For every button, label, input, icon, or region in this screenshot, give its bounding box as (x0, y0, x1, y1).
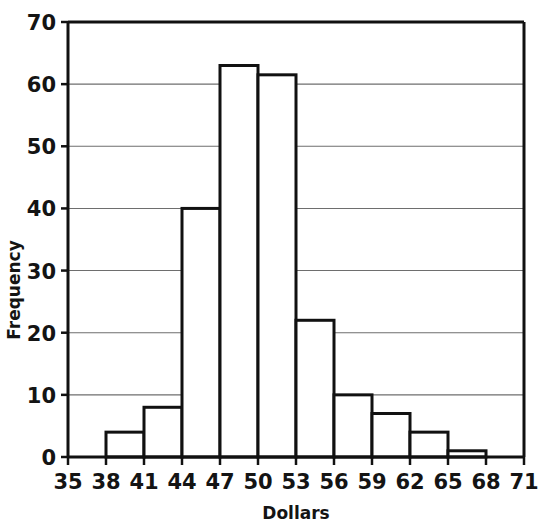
x-tick-label-35: 35 (53, 470, 82, 494)
y-tick-label-60: 60 (27, 73, 56, 97)
histogram-bar (258, 75, 296, 457)
y-tick-label-0: 0 (41, 446, 56, 470)
histogram-bar (182, 208, 220, 457)
x-tick-label-38: 38 (91, 470, 120, 494)
histogram-bar (334, 395, 372, 457)
y-tick-label-50: 50 (27, 135, 56, 159)
histogram-bar (410, 432, 448, 457)
histogram-bar (144, 407, 182, 457)
x-tick-label-56: 56 (319, 470, 348, 494)
histogram-bar (220, 66, 258, 458)
y-axis-title: Frequency (4, 240, 24, 340)
y-tick-label-40: 40 (27, 197, 56, 221)
y-tick-label-10: 10 (27, 384, 56, 408)
y-tick-label-70: 70 (27, 11, 56, 35)
x-tick-label-50: 50 (243, 470, 272, 494)
x-tick-label-53: 53 (281, 470, 310, 494)
x-axis-title: Dollars (262, 503, 329, 523)
x-tick-label-62: 62 (395, 470, 424, 494)
x-tick-label-65: 65 (433, 470, 462, 494)
histogram-bar (296, 320, 334, 457)
x-tick-label-68: 68 (471, 470, 500, 494)
x-tick-label-47: 47 (205, 470, 234, 494)
y-tick-label-20: 20 (27, 322, 56, 346)
x-tick-label-41: 41 (129, 470, 158, 494)
y-tick-label-30: 30 (27, 260, 56, 284)
histogram-bar (372, 414, 410, 458)
histogram-figure: 010203040506070 353841444750535659626568… (0, 0, 542, 526)
x-tick-label-71: 71 (509, 470, 538, 494)
x-tick-label-59: 59 (357, 470, 386, 494)
x-tick-label-44: 44 (167, 470, 196, 494)
histogram-bar (106, 432, 144, 457)
